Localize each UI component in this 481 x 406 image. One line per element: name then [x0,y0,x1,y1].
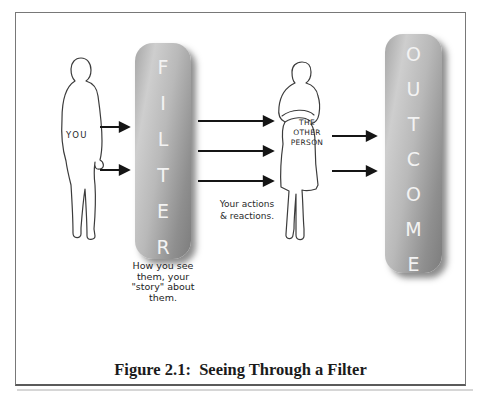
you-person-outline [51,55,113,247]
filter-note: How you see them, your "story" about the… [123,261,203,303]
filter-bar-label: FILTER [152,56,174,272]
actions-note: Your actions & reactions. [207,199,287,222]
page-scan-shadow-line [17,389,473,391]
outcome-bar: OUTCOME [385,34,442,273]
figure-box: YOU FILTER THE OTHER PERSON OUTCOME [15,12,466,386]
figure-caption: Figure 2.1: Seeing Through a Filter [16,360,465,380]
page: YOU FILTER THE OTHER PERSON OUTCOME [0,0,481,406]
outcome-bar-label: OUTCOME [403,43,425,288]
you-label: YOU [57,130,97,140]
filter-bar: FILTER [135,43,191,259]
other-person-label: THE OTHER PERSON [277,118,337,148]
